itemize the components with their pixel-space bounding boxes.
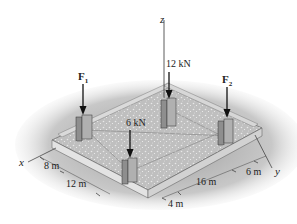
foundation-diagram: z 12 kN F1 F2 6 kN x 8 m 12 m 4 m 16 m 6…: [0, 0, 297, 224]
y-axis-label: y: [275, 166, 280, 177]
dimension-6m: 6 m: [246, 167, 261, 177]
load-6kn-label: 6 kN: [126, 118, 146, 128]
dimension-12m: 12 m: [66, 179, 86, 189]
column-6kn: [122, 158, 137, 184]
diagram-canvas: [0, 0, 297, 224]
load-f1-label: F1: [78, 71, 88, 85]
f2-subscript: 2: [229, 80, 233, 88]
f1-subscript: 1: [85, 77, 89, 85]
f1-symbol: F: [78, 70, 85, 82]
dimension-16m: 16 m: [196, 177, 216, 187]
dimension-4m: 4 m: [168, 199, 183, 209]
z-axis-label: z: [160, 14, 164, 25]
f2-symbol: F: [222, 73, 229, 85]
x-axis-label: x: [19, 157, 24, 168]
dimension-8m: 8 m: [44, 161, 59, 171]
load-f2-label: F2: [222, 74, 232, 88]
column-f1: [76, 115, 92, 141]
column-12kn: [161, 98, 176, 128]
load-12kn-label: 12 kN: [166, 59, 191, 69]
column-f2: [218, 119, 233, 145]
